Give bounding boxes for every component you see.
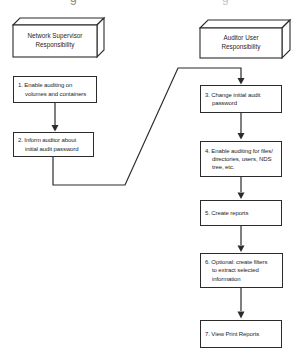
arrowhead-down-icon <box>238 312 245 319</box>
arrowhead-down-icon <box>238 78 245 85</box>
step-text-line: 4. Enable auditing for files/ <box>205 147 279 155</box>
step-text-line: 2. Inform auditor about <box>18 136 91 144</box>
step-text-line: 6. Optional: create filters <box>205 258 280 266</box>
arrowhead-down-icon <box>52 125 59 132</box>
step-box-7: 7. View Print Reports <box>200 320 282 348</box>
step-text-line: directories, users, NDS <box>205 155 279 163</box>
step-text-line: tree, etc. <box>205 163 279 171</box>
header-line: Network Supervisor <box>13 32 97 41</box>
step-box-3: 3. Change initial audit password <box>200 85 282 113</box>
header-line: Responsibility <box>13 41 97 50</box>
step-text-line: to extract selected <box>205 266 280 274</box>
header-line: Responsibility <box>200 43 282 52</box>
header-network-supervisor: Network Supervisor Responsibility <box>13 25 97 57</box>
step-box-2: 2. Inform auditor about initial audit pa… <box>13 132 94 157</box>
header-line: Auditor User <box>200 34 282 43</box>
step-text-line: initial audit password <box>18 145 91 153</box>
step-text-line: information <box>205 275 280 283</box>
supervisor-box-side-face <box>97 18 104 57</box>
step-text-line: volumes and containers <box>18 90 94 98</box>
step-box-1: 1. Enable auditing on volumes and contai… <box>13 76 97 103</box>
step-text-line: 1. Enable auditing on <box>18 81 94 89</box>
step-text-line: 3. Change initial audit <box>205 91 279 99</box>
arrowhead-down-icon <box>238 246 245 253</box>
step-box-4: 4. Enable auditing for files/ directorie… <box>200 141 282 177</box>
step-text-line: 5. Create reports <box>205 209 279 217</box>
flowchart-canvas: g g <box>0 0 300 355</box>
header-auditor-user: Auditor User Responsibility <box>200 28 282 58</box>
supervisor-box-top-face <box>13 18 104 25</box>
step-box-5: 5. Create reports <box>200 200 282 226</box>
step-text-line: 7. View Print Reports <box>205 330 279 338</box>
auditor-box-top-face <box>200 20 290 28</box>
arrowhead-down-icon <box>238 193 245 200</box>
arrowhead-down-icon <box>238 133 245 140</box>
step-text-line: password <box>205 99 279 107</box>
step-box-6: 6. Optional: create filters to extract s… <box>200 253 283 288</box>
